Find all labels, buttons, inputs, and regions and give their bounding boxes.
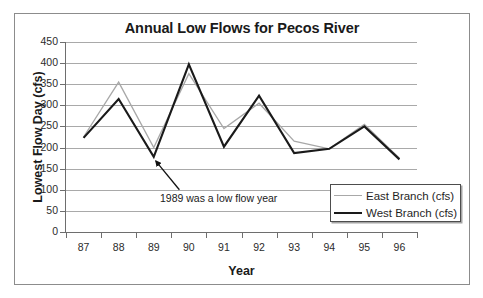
x-axis-tick-label: 92 bbox=[244, 241, 274, 253]
y-axis-tick-labels: 050100150200250300350400450 bbox=[14, 0, 58, 298]
x-axis-tick-label: 90 bbox=[174, 241, 204, 253]
chart-figure: Annual Low Flows for Pecos River Lowest … bbox=[0, 0, 483, 298]
gridline bbox=[66, 169, 417, 170]
y-axis-tick-mark bbox=[60, 232, 65, 233]
legend-swatch-west-branch bbox=[334, 212, 362, 214]
x-axis-tick-mark bbox=[171, 233, 172, 238]
gridline bbox=[66, 105, 417, 106]
x-axis-tick-label: 88 bbox=[104, 241, 134, 253]
legend-swatch-east-branch bbox=[334, 195, 362, 196]
gridline bbox=[66, 42, 417, 43]
x-axis-tick-mark bbox=[136, 233, 137, 238]
x-axis-tick-mark bbox=[277, 233, 278, 238]
x-axis-tick-label: 89 bbox=[139, 241, 169, 253]
x-axis-tick-mark bbox=[382, 233, 383, 238]
gridline bbox=[66, 126, 417, 127]
y-axis-tick-label: 300 bbox=[18, 99, 58, 110]
y-axis-tick-mark bbox=[60, 190, 65, 191]
y-axis-tick-label: 200 bbox=[18, 142, 58, 153]
y-axis-tick-mark bbox=[60, 169, 65, 170]
y-axis-tick-label: 0 bbox=[18, 226, 58, 237]
y-axis-tick-mark bbox=[60, 148, 65, 149]
y-axis-tick-label: 100 bbox=[18, 184, 58, 195]
x-axis-tick-label: 91 bbox=[209, 241, 239, 253]
chart-title: Annual Low Flows for Pecos River bbox=[14, 20, 470, 36]
legend-item-west-branch: West Branch (cfs) bbox=[334, 204, 457, 221]
x-axis-tick-label: 94 bbox=[314, 241, 344, 253]
gridline bbox=[66, 84, 417, 85]
x-axis-tick-mark bbox=[101, 233, 102, 238]
y-axis-tick-mark bbox=[60, 105, 65, 106]
y-axis-tick-label: 400 bbox=[18, 57, 58, 68]
y-axis-tick-label: 450 bbox=[18, 36, 58, 47]
x-axis-tick-mark bbox=[312, 233, 313, 238]
x-axis-tick-mark bbox=[347, 233, 348, 238]
y-axis-tick-label: 150 bbox=[18, 163, 58, 174]
legend-label-west-branch: West Branch (cfs) bbox=[366, 207, 457, 219]
y-axis-tick-mark bbox=[60, 63, 65, 64]
annotation-label: 1989 was a low flow year bbox=[160, 192, 277, 204]
x-axis-tick-mark bbox=[66, 233, 67, 238]
y-axis-tick-mark bbox=[60, 126, 65, 127]
y-axis-tick-mark bbox=[60, 211, 65, 212]
gridline bbox=[66, 148, 417, 149]
x-axis-tick-label: 96 bbox=[384, 241, 414, 253]
legend-label-east-branch: East Branch (cfs) bbox=[366, 190, 454, 202]
y-axis-tick-mark bbox=[60, 42, 65, 43]
y-axis-tick-label: 50 bbox=[18, 205, 58, 216]
x-axis-title: Year bbox=[66, 264, 417, 278]
x-axis-tick-mark bbox=[242, 233, 243, 238]
y-axis-tick-mark bbox=[60, 84, 65, 85]
x-axis-tick-mark bbox=[206, 233, 207, 238]
x-axis-tick-label: 87 bbox=[69, 241, 99, 253]
chart-legend: East Branch (cfs) West Branch (cfs) bbox=[330, 184, 461, 222]
x-axis-tick-mark bbox=[417, 233, 418, 238]
legend-item-east-branch: East Branch (cfs) bbox=[334, 187, 454, 204]
y-axis-tick-label: 350 bbox=[18, 78, 58, 89]
gridline bbox=[66, 63, 417, 64]
x-axis-tick-label: 95 bbox=[349, 241, 379, 253]
x-axis-tick-label: 93 bbox=[279, 241, 309, 253]
y-axis-tick-label: 250 bbox=[18, 120, 58, 131]
